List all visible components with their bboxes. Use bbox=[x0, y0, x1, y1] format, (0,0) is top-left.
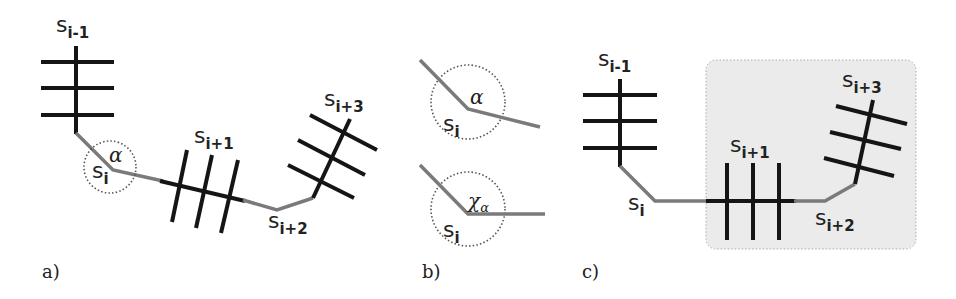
angle-label-alpha: α bbox=[109, 143, 123, 167]
segment-s-i-plus-1 bbox=[160, 150, 245, 233]
panel-b: si α si χα b) bbox=[420, 60, 545, 282]
figure-canvas: si-1 si α si+1 si+2 si+3 a) si α si bbox=[0, 0, 956, 299]
node-label-s-i-c: si bbox=[628, 190, 645, 220]
segment-s-i-plus-3 bbox=[288, 115, 377, 198]
panel-label-c: c) bbox=[582, 261, 599, 282]
node-label-s-i-minus-1-c: si-1 bbox=[598, 46, 631, 76]
angle-label-chi-alpha: χα bbox=[466, 189, 489, 215]
node-label-s-i-plus-2: si+2 bbox=[268, 208, 308, 238]
segment-s-i-minus-1 bbox=[41, 46, 114, 134]
panel-label-a: a) bbox=[42, 261, 60, 282]
panel-a: si-1 si α si+1 si+2 si+3 a) bbox=[41, 12, 377, 282]
node-label-s-i-top: si bbox=[443, 111, 460, 141]
node-label-s-i-minus-1: si-1 bbox=[56, 12, 89, 42]
segment-s-i-minus-1-c bbox=[583, 79, 657, 167]
panel-c: si-1 si si+1 si+2 si+3 c) bbox=[582, 46, 916, 282]
node-label-s-i-plus-3: si+3 bbox=[324, 86, 364, 116]
angle-label-alpha-top: α bbox=[470, 85, 484, 109]
node-label-s-i-plus-1: si+1 bbox=[194, 123, 234, 153]
panel-label-b: b) bbox=[422, 261, 441, 282]
